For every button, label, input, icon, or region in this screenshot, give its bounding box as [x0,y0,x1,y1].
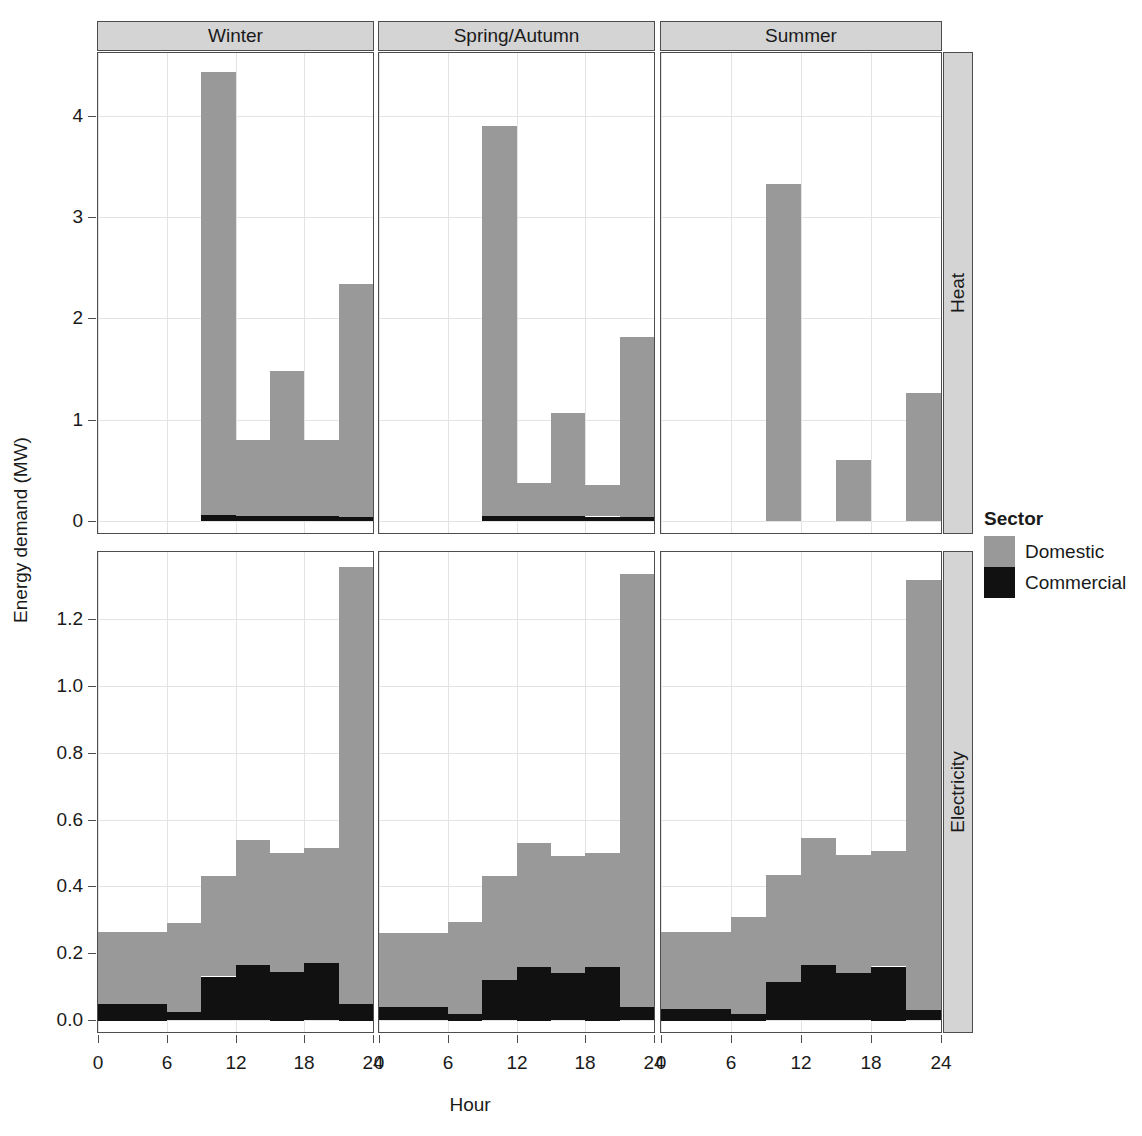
gridline-vertical [585,53,586,533]
bar-domestic [167,923,201,1012]
x-axis-tick [98,1035,99,1043]
gridline-vertical [167,53,168,533]
x-axis-tick-label: 0 [93,1052,104,1074]
bar-commercial [871,967,906,1021]
y-axis-tick-label: 0.0 [57,1009,83,1031]
gridline-horizontal [379,619,654,620]
gridline-horizontal [661,420,941,421]
x-axis-tick [167,1035,168,1043]
x-axis-tick [236,1035,237,1043]
y-axis-tick-label: 0.2 [57,942,83,964]
bar-commercial [482,980,517,1020]
bar-commercial [132,1004,167,1021]
bar-commercial [585,517,620,521]
gridline-vertical [654,53,655,533]
facet-strip-label: Summer [765,25,837,47]
y-axis-tick [88,753,96,754]
gridline-vertical [661,53,662,533]
legend-label: Commercial [1025,572,1126,594]
bar-commercial [201,515,236,521]
x-axis-tick [585,1035,586,1043]
gridline-vertical [517,53,518,533]
gridline-horizontal [379,753,654,754]
x-axis-tick-label: 12 [506,1052,527,1074]
bar-domestic [661,932,696,1009]
y-axis-tick-label: 2 [72,307,83,329]
gridline-horizontal [98,820,373,821]
panel-electricity-spring-autumn [378,551,655,1033]
bar-domestic [379,933,413,1007]
x-axis-tick-label: 18 [574,1052,595,1074]
bar-domestic [620,574,654,1007]
gridline-horizontal [98,521,373,522]
bar-commercial [801,965,836,1020]
bar-domestic [304,440,339,516]
y-axis-tick [88,318,96,319]
gridline-vertical [448,53,449,533]
gridline-vertical [941,53,942,533]
bar-commercial [270,972,304,1021]
bar-domestic [482,876,517,980]
x-axis-tick [448,1035,449,1043]
panel-electricity-winter [97,551,374,1033]
gridline-horizontal [379,116,654,117]
facet-strip-row-electricity: Electricity [943,551,973,1033]
bar-domestic [201,72,236,516]
legend-swatch-commercial [984,567,1015,598]
x-axis-tick-label: 6 [726,1052,737,1074]
panel-heat-spring-autumn [378,52,655,534]
gridline-vertical [373,53,374,533]
gridline-horizontal [98,619,373,620]
gridline-vertical [731,53,732,533]
bar-commercial [379,1007,413,1020]
bar-commercial [236,516,270,521]
legend-swatch-domestic [984,536,1015,567]
bar-domestic [871,851,906,966]
gridline-horizontal [98,753,373,754]
bar-commercial [731,1014,766,1021]
x-axis-tick-label: 0 [656,1052,667,1074]
x-axis-tick [871,1035,872,1043]
gridline-horizontal [661,521,941,522]
y-axis-tick-label: 1.0 [57,675,83,697]
bar-commercial [766,982,801,1020]
y-axis-tick-label: 0.8 [57,742,83,764]
legend-label: Domestic [1025,541,1104,563]
y-axis-tick [88,521,96,522]
y-axis-title: Energy demand (MW) [6,0,36,1060]
bar-domestic [517,843,551,967]
y-axis-tick-label: 1.2 [57,608,83,630]
bar-commercial [836,973,871,1020]
bar-commercial [585,967,620,1021]
bar-domestic [482,126,517,516]
bar-commercial [448,1014,482,1021]
x-axis-tick-label: 18 [860,1052,881,1074]
x-axis-tick-label: 12 [225,1052,246,1074]
bar-commercial [696,1009,731,1021]
x-axis-tick [304,1035,305,1043]
bar-domestic [836,460,871,521]
bar-commercial [517,967,551,1021]
facet-strip-column-summer: Summer [660,21,942,51]
gridline-vertical [373,552,374,1032]
x-axis-tick [661,1035,662,1043]
bar-commercial [201,977,236,1020]
facet-strip-column-winter: Winter [97,21,374,51]
bar-domestic [517,483,551,516]
x-axis-tick-label: 6 [443,1052,454,1074]
gridline-horizontal [661,753,941,754]
bar-domestic [304,848,339,963]
panel-electricity-summer [660,551,942,1033]
bar-commercial [270,516,304,521]
bar-domestic [448,922,482,1014]
facet-strip-label: Heat [947,273,969,313]
legend-item-domestic[interactable]: Domestic [984,536,1126,567]
panel-heat-winter [97,52,374,534]
bar-commercial [551,516,585,521]
legend-item-commercial[interactable]: Commercial [984,567,1126,598]
bar-commercial [98,1004,132,1021]
bar-domestic [766,184,801,521]
bar-domestic [906,580,941,1010]
bar-domestic [620,337,654,517]
y-axis-tick-label: 0 [72,510,83,532]
